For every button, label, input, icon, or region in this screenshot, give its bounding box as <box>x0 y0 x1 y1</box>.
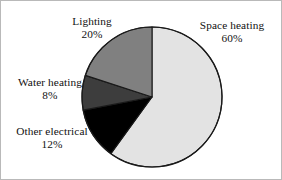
pie-label-lighting: Lighting 20% <box>50 15 134 41</box>
pie-label-space-heating: Space heating 60% <box>186 19 278 45</box>
pie-label-space-heating-name: Space heating <box>186 19 278 32</box>
pie-label-other-electrical-value: 12% <box>0 138 104 151</box>
pie-label-water-heating-name: Water heating <box>2 76 98 89</box>
pie-label-water-heating: Water heating 8% <box>2 76 98 102</box>
pie-chart-figure: Space heating 60% Lighting 20% Water hea… <box>0 0 282 180</box>
pie-label-water-heating-value: 8% <box>2 89 98 102</box>
pie-label-lighting-value: 20% <box>50 28 134 41</box>
pie-label-other-electrical-name: Other electrical <box>0 125 104 138</box>
pie-label-lighting-name: Lighting <box>50 15 134 28</box>
pie-label-other-electrical: Other electrical 12% <box>0 125 104 151</box>
pie-label-space-heating-value: 60% <box>186 32 278 45</box>
